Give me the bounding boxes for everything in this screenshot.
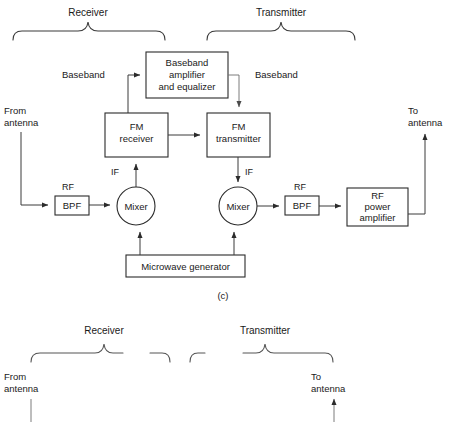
if-left-label: IF: [111, 167, 120, 177]
rf-power-amp-line3: amplifier: [360, 212, 396, 223]
from-antenna-line2: antenna: [4, 117, 39, 128]
mixer-right-label: Mixer: [226, 201, 249, 212]
bpf-left-block: BPF: [55, 196, 89, 215]
next-figure-transmitter-brace: [190, 344, 333, 362]
next-figure-from-antenna-line2: antenna: [4, 383, 39, 394]
next-figure-receiver-brace: [31, 344, 170, 362]
from-antenna-line1: From: [4, 105, 26, 116]
next-figure-to-antenna-line1: To: [311, 371, 321, 382]
fm-receiver-line1: FM: [130, 121, 144, 132]
transmitter-group-label: Transmitter: [256, 7, 307, 18]
next-figure-receiver-group-label: Receiver: [84, 325, 124, 336]
fm-transmitter-line2: transmitter: [216, 133, 261, 144]
rf-power-amplifier-block: RF power amplifier: [347, 188, 408, 226]
baseband-input-label: Baseband: [62, 69, 105, 80]
fm-receiver-block: FM receiver: [105, 113, 168, 157]
receiver-brace: [13, 22, 165, 40]
fm-transmitter-line1: FM: [232, 121, 246, 132]
mixer-right-block: Mixer: [219, 187, 257, 225]
rf-power-amp-line2: power: [365, 201, 391, 212]
transmitter-brace: [207, 22, 355, 40]
baseband-amplifier-block: Baseband amplifier and equalizer: [146, 52, 228, 98]
next-figure-transmitter-group-label: Transmitter: [240, 325, 291, 336]
mixer-left-label: Mixer: [124, 201, 147, 212]
rf-power-amp-line1: RF: [371, 190, 384, 201]
baseband-amp-line1: Baseband: [166, 57, 209, 68]
wire-rf-power-amp-to-antenna: [408, 134, 425, 214]
to-antenna-line1: To: [408, 105, 418, 116]
baseband-amp-line3: and equalizer: [158, 81, 215, 92]
mixer-left-block: Mixer: [117, 187, 155, 225]
rf-left-label: RF: [62, 182, 74, 192]
fm-receiver-line2: receiver: [120, 133, 154, 144]
rf-right-label: RF: [294, 182, 306, 192]
fm-transmitter-block: FM transmitter: [207, 113, 270, 157]
bpf-left-label: BPF: [63, 200, 82, 211]
block-diagram-figure: Receiver Transmitter Baseband amplifier …: [0, 0, 450, 422]
receiver-group-label: Receiver: [68, 7, 108, 18]
bpf-right-block: BPF: [285, 196, 319, 215]
bpf-right-label: BPF: [293, 200, 312, 211]
if-right-label: IF: [245, 167, 254, 177]
baseband-amp-line2: amplifier: [169, 69, 205, 80]
microwave-generator-label: Microwave generator: [141, 261, 230, 272]
wire-fm-receiver-to-baseband-amp: [128, 75, 140, 113]
to-antenna-line2: antenna: [408, 117, 443, 128]
figure-caption: (c): [217, 290, 228, 301]
wire-from-antenna-to-bpf-left: [21, 132, 48, 205]
wire-baseband-amp-to-fm-transmitter: [228, 75, 239, 107]
next-figure-to-antenna-line2: antenna: [311, 383, 346, 394]
baseband-output-label: Baseband: [255, 69, 298, 80]
next-figure-from-antenna-line1: From: [4, 371, 26, 382]
microwave-generator-block: Microwave generator: [126, 255, 245, 277]
